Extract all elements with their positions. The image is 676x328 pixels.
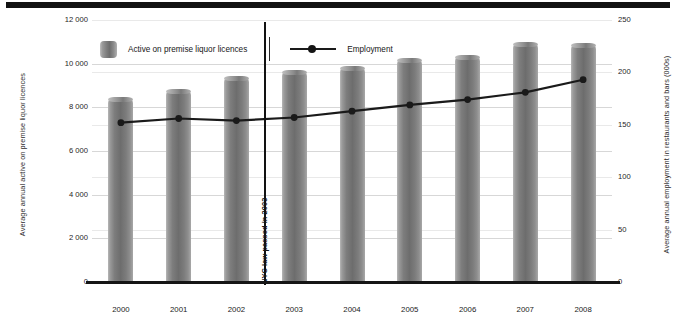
- chart-legend: Active on premise liquor licences Employ…: [100, 36, 393, 62]
- legend-divider: [269, 37, 270, 61]
- y-tick-right-150: 150: [618, 120, 658, 129]
- y-tick-right-200: 200: [618, 67, 658, 76]
- y-tick-right-100: 100: [618, 172, 658, 181]
- y-axis-title-right: Average annual employment in restaurants…: [662, 55, 671, 255]
- x-axis-line: [86, 281, 620, 284]
- data-point-2002: [233, 117, 240, 124]
- y-tick-left-0: 0: [32, 277, 88, 286]
- data-point-2004: [349, 108, 356, 115]
- y-tick-left-12000: 12 000: [32, 15, 88, 24]
- employment-line: [121, 80, 583, 123]
- x-tick-2007: 2007: [505, 305, 545, 314]
- y-tick-right-250: 250: [618, 15, 658, 24]
- x-tick-2003: 2003: [274, 305, 314, 314]
- data-point-2000: [118, 119, 125, 126]
- x-tick-2004: 2004: [332, 305, 372, 314]
- legend-item-line[interactable]: Employment: [290, 44, 393, 54]
- chart-figure: Average annual active on premise liquor …: [0, 0, 676, 328]
- data-point-2003: [291, 114, 298, 121]
- data-point-2006: [464, 96, 471, 103]
- legend-label-line: Employment: [347, 45, 393, 54]
- x-tick-2005: 2005: [390, 305, 430, 314]
- y-axis-title-left: Average annual active on premise liquor …: [18, 55, 27, 255]
- x-tick-2002: 2002: [216, 305, 256, 314]
- data-point-2001: [175, 115, 182, 122]
- x-tick-2006: 2006: [448, 305, 488, 314]
- y-tick-right-0: 0: [618, 277, 658, 286]
- y-tick-left-10000: 10 000: [32, 59, 88, 68]
- y-tick-left-8000: 8 000: [32, 102, 88, 111]
- x-tick-2008: 2008: [563, 305, 603, 314]
- y-tick-left-2000: 2 000: [32, 233, 88, 242]
- y-tick-left-4000: 4 000: [32, 190, 88, 199]
- bar-swatch-icon: [100, 41, 117, 58]
- data-point-2008: [580, 76, 587, 83]
- line-marker-icon: [290, 44, 336, 54]
- data-point-2007: [522, 89, 529, 96]
- data-point-2005: [406, 102, 413, 109]
- x-tick-2001: 2001: [159, 305, 199, 314]
- y-tick-left-6000: 6 000: [32, 146, 88, 155]
- x-tick-2000: 2000: [101, 305, 141, 314]
- header-rule: [6, 2, 670, 8]
- y-tick-right-50: 50: [618, 225, 658, 234]
- nyc-law-event-label: NYC law passed in 2003: [260, 198, 269, 284]
- legend-item-bars[interactable]: Active on premise liquor licences: [100, 41, 247, 58]
- legend-label-bars: Active on premise liquor licences: [128, 45, 247, 54]
